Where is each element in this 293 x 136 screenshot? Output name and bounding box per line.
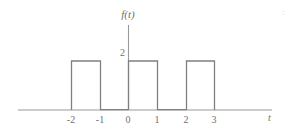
x-axis-name-label: t — [268, 112, 271, 123]
pulse-train-plot — [0, 0, 293, 136]
x-tick-label-minus1: -1 — [96, 114, 104, 125]
y-axis-value-label: 2 — [120, 47, 125, 58]
x-tick-label-minus2: -2 — [67, 114, 75, 125]
x-tick-label-0: 0 — [126, 114, 131, 125]
corner-artifact-mark: : — [282, 7, 285, 17]
pulse-segment-3 — [187, 61, 215, 110]
function-label: f(t) — [121, 8, 134, 20]
figure-container: f(t) 2 -2 -1 0 1 2 3 t : — [0, 0, 293, 136]
pulse-segment-2 — [129, 61, 158, 110]
x-tick-label-3: 3 — [212, 114, 217, 125]
x-tick-label-2: 2 — [184, 114, 189, 125]
pulse-segment-1 — [72, 61, 101, 110]
x-tick-label-1: 1 — [155, 114, 160, 125]
